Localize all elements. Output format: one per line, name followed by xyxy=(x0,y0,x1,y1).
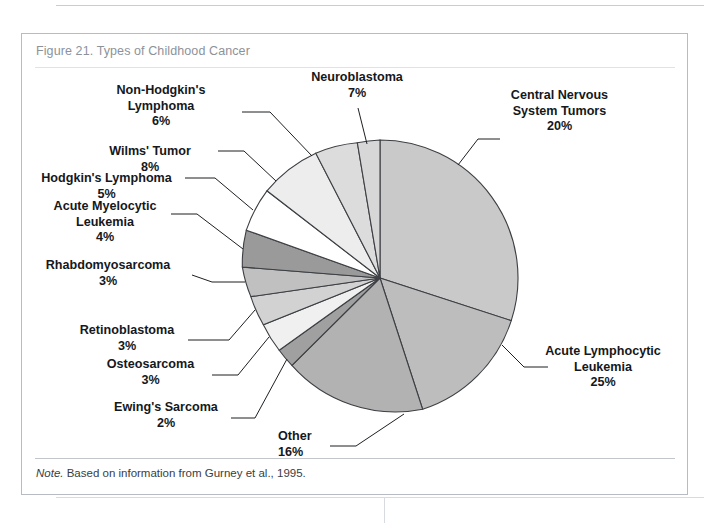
label-osteo-name: Osteosarcoma xyxy=(90,357,211,373)
slice-non-hodgkins-lymphoma[interactable] xyxy=(316,143,380,278)
label-aml-percent: 4% xyxy=(41,230,169,246)
leader-line-retinoblastoma xyxy=(188,310,255,340)
label-osteosarcoma: Osteosarcoma 3% xyxy=(90,357,211,388)
slice-wilms-tumor[interactable] xyxy=(267,153,380,278)
label-retinoblastoma: Retinoblastoma 3% xyxy=(66,323,188,354)
leader-line-neuroblastoma xyxy=(358,108,367,144)
label-non-hodgkins-lymphoma: Non-Hodgkin's Lymphoma 6% xyxy=(82,83,240,130)
page-rule-bottom xyxy=(56,497,704,498)
label-retino-name: Retinoblastoma xyxy=(66,323,188,339)
slice-hodgkins-lymphoma[interactable] xyxy=(246,191,380,278)
label-neuroblastoma: Neuroblastoma 7% xyxy=(282,70,432,101)
figure-note: Note. Based on information from Gurney e… xyxy=(36,467,306,479)
page-rule-top xyxy=(56,5,704,6)
label-neuroblastoma-name: Neuroblastoma xyxy=(282,70,432,86)
leader-line-central-nervous-system-tumors xyxy=(458,139,500,165)
page-column-divider xyxy=(384,498,385,523)
label-hl-name: Hodgkin's Lymphoma xyxy=(30,171,183,187)
slice-acute-lymphocytic-leukemia[interactable] xyxy=(380,278,511,409)
leader-line-ewings-sarcoma xyxy=(231,359,287,418)
slice-osteosarcoma[interactable] xyxy=(263,278,380,350)
figure-note-label: Note. xyxy=(36,467,64,479)
label-nhl-percent: 6% xyxy=(82,114,240,130)
slice-other[interactable] xyxy=(292,278,423,412)
label-other-name: Other xyxy=(278,429,348,445)
label-rhabdomyosarcoma: Rhabdomyosarcoma 3% xyxy=(28,258,188,289)
label-all-name-line2: Leukemia xyxy=(519,360,687,376)
label-other: Other 16% xyxy=(278,429,348,460)
slice-acute-myelocytic-leukemia[interactable] xyxy=(242,230,380,278)
title-divider xyxy=(35,67,675,68)
note-divider xyxy=(35,458,675,459)
label-nhl-name-line1: Non-Hodgkin's xyxy=(82,83,240,99)
leader-lines xyxy=(171,108,548,446)
leader-line-non-hodgkins-lymphoma xyxy=(242,112,312,156)
label-ewings-percent: 2% xyxy=(101,416,231,432)
slice-rhabdomyosarcoma[interactable] xyxy=(242,267,380,297)
label-all-name-line1: Acute Lymphocytic xyxy=(519,344,687,360)
label-wilms-name: Wilms' Tumor xyxy=(84,144,216,160)
figure-note-text: Based on information from Gurney et al.,… xyxy=(64,467,306,479)
slice-retinoblastoma[interactable] xyxy=(251,278,380,325)
leader-line-wilms-tumor xyxy=(218,151,276,181)
label-cns-name-line2: System Tumors xyxy=(477,104,642,120)
label-hodgkins-lymphoma: Hodgkin's Lymphoma 5% xyxy=(30,171,183,202)
label-rhabdo-name: Rhabdomyosarcoma xyxy=(28,258,188,274)
label-osteo-percent: 3% xyxy=(90,373,211,389)
label-acute-lymphocytic-leukemia: Acute Lymphocytic Leukemia 25% xyxy=(519,344,687,391)
slice-ewings-sarcoma[interactable] xyxy=(279,278,380,365)
label-acute-myelocytic-leukemia: Acute Myelocytic Leukemia 4% xyxy=(41,199,169,246)
slice-neuroblastoma[interactable] xyxy=(357,140,380,278)
label-central-nervous-system-tumors: Central Nervous System Tumors 20% xyxy=(477,88,642,135)
figure-container: Figure 21. Types of Childhood Cancer xyxy=(21,33,688,495)
slice-central-nervous-system-tumors[interactable] xyxy=(380,140,518,321)
pie-slices xyxy=(242,140,518,412)
label-cns-name-line1: Central Nervous xyxy=(477,88,642,104)
label-aml-name-line2: Leukemia xyxy=(41,215,169,231)
leader-line-hodgkins-lymphoma xyxy=(185,178,253,210)
label-all-percent: 25% xyxy=(519,375,687,391)
label-rhabdo-percent: 3% xyxy=(28,274,188,290)
leader-line-acute-myelocytic-leukemia xyxy=(171,214,243,249)
label-neuroblastoma-percent: 7% xyxy=(282,86,432,102)
leader-line-rhabdomyosarcoma xyxy=(192,275,245,282)
label-nhl-name-line2: Lymphoma xyxy=(82,99,240,115)
figure-title: Figure 21. Types of Childhood Cancer xyxy=(36,44,250,58)
leader-line-osteosarcoma xyxy=(212,337,269,375)
label-ewings-sarcoma: Ewing's Sarcoma 2% xyxy=(101,400,231,431)
label-aml-name-line1: Acute Myelocytic xyxy=(41,199,169,215)
label-ewings-name: Ewing's Sarcoma xyxy=(101,400,231,416)
label-retino-percent: 3% xyxy=(66,339,188,355)
label-cns-percent: 20% xyxy=(477,119,642,135)
